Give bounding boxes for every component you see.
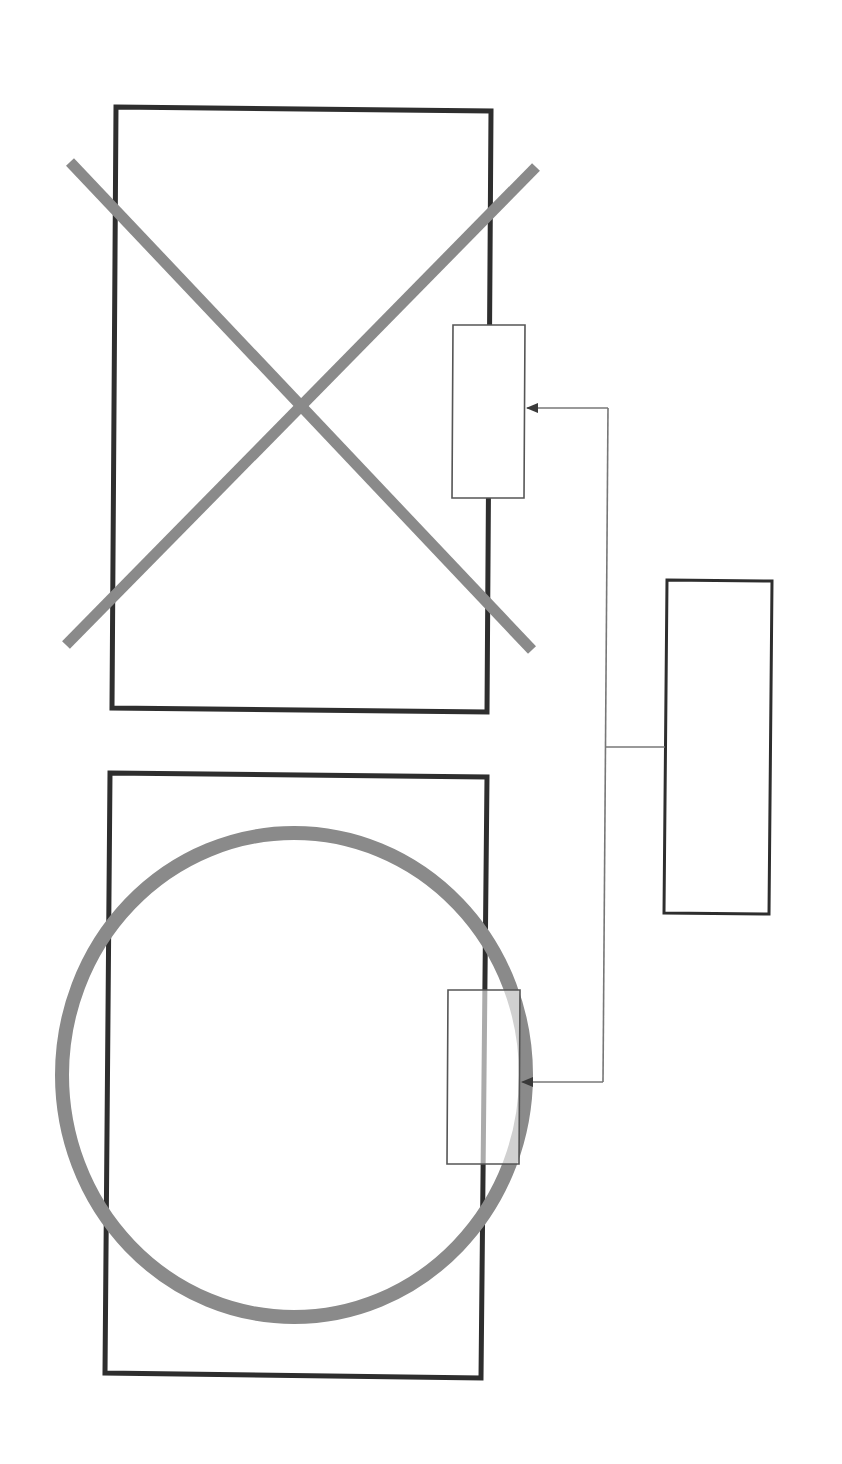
bottom-panel — [62, 773, 526, 1378]
top-panel — [66, 107, 536, 712]
controller-box — [664, 580, 772, 914]
bottom-module-box — [447, 990, 520, 1164]
top-module-box — [452, 325, 525, 498]
diagram-canvas — [0, 0, 842, 1464]
connector-lines — [522, 408, 665, 1082]
bottom-panel-frame — [105, 773, 487, 1378]
connector-trunk — [603, 408, 608, 1082]
